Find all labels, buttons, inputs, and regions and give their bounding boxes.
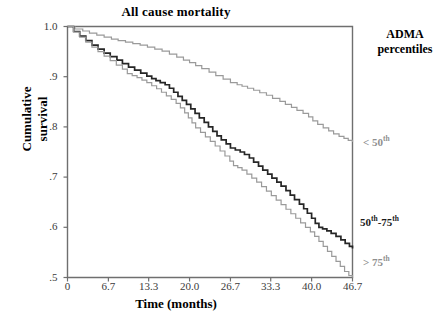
x-tick-label: 20.0 [173, 280, 207, 292]
x-tick-label: 40.0 [295, 280, 329, 292]
plot-area [0, 0, 448, 322]
y-tick-label: .9 [32, 70, 58, 82]
figure: All cause mortality ADMA percentiles < 5… [0, 0, 448, 322]
x-tick-label: 13.3 [132, 280, 166, 292]
survival-curve--75th [68, 27, 353, 278]
x-tick-label: 26.7 [213, 280, 247, 292]
y-tick-label: .7 [32, 170, 58, 182]
x-tick-label: 6.7 [91, 280, 125, 292]
y-tick-label: .6 [32, 220, 58, 232]
survival-curve--50th [68, 27, 353, 142]
plot-frame [68, 27, 353, 278]
x-tick-label: 46.7 [336, 280, 370, 292]
y-tick-label: .5 [32, 271, 58, 283]
y-tick-label: 1.0 [32, 20, 58, 32]
y-tick-label: .8 [32, 120, 58, 132]
x-tick-label: 33.3 [254, 280, 288, 292]
